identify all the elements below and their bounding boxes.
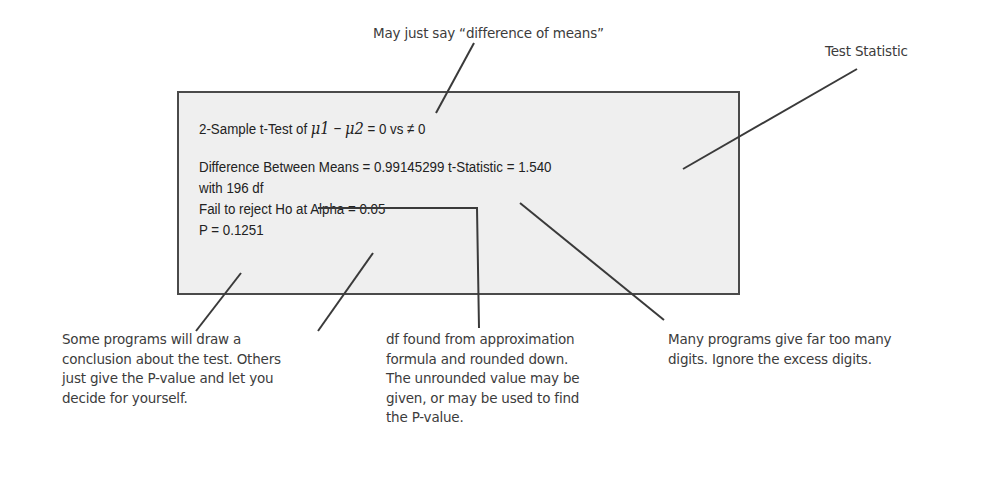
annotation-df-line: the P-value.	[386, 408, 579, 428]
annotation-df-line: given, or may be used to find	[386, 389, 579, 409]
leader-line-conclusion	[318, 253, 373, 331]
annotation-digits-line: digits. Ignore the excess digits.	[668, 350, 891, 370]
annotation-conclusion: Some programs will draw a conclusion abo…	[62, 330, 281, 408]
leader-line-p-value	[196, 273, 241, 331]
annotation-df-line: df found from approximation	[386, 330, 579, 350]
annotation-conclusion-line: conclusion about the test. Others	[62, 350, 281, 370]
annotation-df-approximation: df found from approximation formula and …	[386, 330, 579, 428]
annotation-df-line: The unrounded value may be	[386, 369, 579, 389]
annotation-digits-line: Many programs give far too many	[668, 330, 891, 350]
leader-line-degrees-of-freedom	[318, 208, 479, 328]
leader-line-excess-digits	[520, 203, 664, 320]
annotation-df-line: formula and rounded down.	[386, 350, 579, 370]
leader-line-test-statistic	[683, 69, 857, 169]
annotation-excess-digits: Many programs give far too many digits. …	[668, 330, 891, 369]
annotation-conclusion-line: just give the P-value and let you	[62, 369, 281, 389]
annotation-conclusion-line: Some programs will draw a	[62, 330, 281, 350]
annotation-conclusion-line: decide for yourself.	[62, 389, 281, 409]
leader-line-difference-of-means	[436, 43, 474, 113]
